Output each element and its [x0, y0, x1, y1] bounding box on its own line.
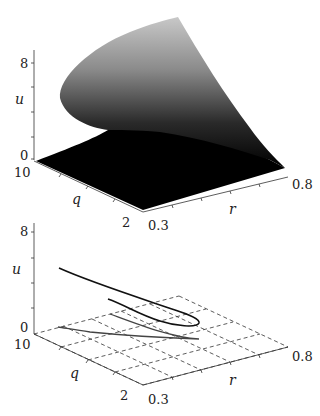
top-u-tick-8: 8	[20, 57, 28, 70]
top-r-axis-label: r	[229, 202, 236, 216]
bottom-u-tick-8: 8	[20, 225, 28, 238]
bottom-q-tick-10: 10	[14, 338, 31, 351]
bottom-q-axis-label: q	[70, 366, 79, 380]
bottom-r-tick-03: 0.3	[148, 393, 169, 406]
top-q-tick-2: 2	[122, 216, 130, 229]
bottom-u-tick-0: 0	[20, 321, 28, 334]
bottom-q-tick-2: 2	[120, 389, 128, 402]
bottom-q-ticks	[59, 347, 115, 375]
top-q-axis-label: q	[72, 192, 81, 206]
bottom-r-ticks	[172, 355, 260, 380]
bottom-u-ticks	[31, 232, 34, 308]
bottom-cusp-projection	[58, 314, 199, 339]
top-surface-plot	[31, 17, 288, 212]
bottom-u-axis-label: u	[12, 262, 21, 276]
figure-canvas	[0, 0, 320, 416]
top-u-axis-label: u	[15, 92, 24, 106]
bottom-r-axis-label: r	[229, 373, 236, 387]
top-u-ticks	[31, 63, 34, 159]
top-q-tick-10: 10	[14, 166, 31, 179]
bottom-curve-plot	[31, 223, 288, 385]
top-r-tick-08: 0.8	[292, 178, 313, 191]
top-u-tick-0: 0	[20, 149, 28, 162]
bottom-r-tick-08: 0.8	[292, 350, 313, 363]
top-r-tick-03: 0.3	[148, 219, 169, 232]
